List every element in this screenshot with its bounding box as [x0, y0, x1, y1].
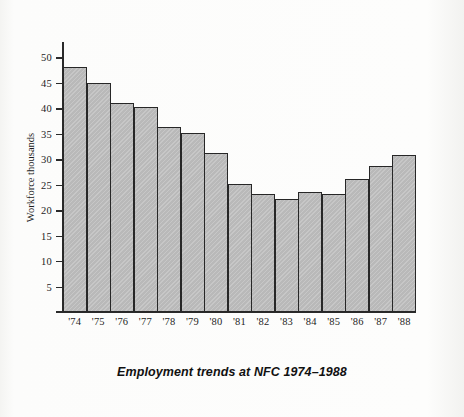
- bar: [345, 179, 369, 312]
- y-tick-label: 10: [41, 256, 52, 267]
- y-tick: 35: [56, 134, 63, 135]
- bar: [251, 194, 275, 312]
- y-tick: 5: [56, 287, 63, 288]
- bar: [181, 133, 205, 312]
- y-tick-label: 20: [41, 205, 52, 216]
- bar: [134, 107, 158, 312]
- x-tick-label: '86: [351, 316, 364, 327]
- bar: [298, 192, 322, 312]
- y-tick: 25: [56, 185, 63, 186]
- y-tick: 45: [56, 83, 63, 84]
- x-tick-label: '75: [92, 316, 105, 327]
- y-tick: 40: [56, 108, 63, 109]
- bar: [369, 166, 393, 312]
- x-tick-label: '84: [304, 316, 317, 327]
- y-tick-label: 15: [41, 230, 52, 241]
- bar: [322, 194, 346, 312]
- bar: [392, 155, 416, 312]
- bar-series: [63, 42, 416, 312]
- x-tick-label: '87: [374, 316, 387, 327]
- x-tick-label: '88: [398, 316, 411, 327]
- x-tick-label: '82: [257, 316, 270, 327]
- y-tick-label: 5: [47, 281, 52, 292]
- x-tick-label: '80: [209, 316, 222, 327]
- y-tick-label: 50: [41, 52, 52, 63]
- y-tick-label: 45: [41, 77, 52, 88]
- bar: [63, 67, 87, 312]
- x-tick-label: '81: [233, 316, 246, 327]
- bar: [87, 83, 111, 312]
- plot-area: 5101520253035404550 '74'75'76'77'78'79'8…: [63, 42, 416, 312]
- figure-page: Workforce thousands 5101520253035404550 …: [0, 0, 464, 417]
- y-tick-label: 40: [41, 103, 52, 114]
- y-tick: 10: [56, 261, 63, 262]
- chart-caption: Employment trends at NFC 1974–1988: [0, 365, 464, 379]
- y-tick: 20: [56, 210, 63, 211]
- y-axis-title-text: Workforce thousands: [26, 132, 37, 221]
- bar: [204, 153, 228, 312]
- bar: [110, 103, 134, 312]
- y-tick: 30: [56, 159, 63, 160]
- y-tick: 50: [56, 57, 63, 58]
- bar-chart-figure: Workforce thousands 5101520253035404550 …: [0, 0, 464, 417]
- bar: [157, 127, 181, 312]
- x-tick-label: '77: [139, 316, 152, 327]
- y-tick-label: 30: [41, 154, 52, 165]
- x-tick-label: '79: [186, 316, 199, 327]
- x-tick-label: '76: [115, 316, 128, 327]
- y-tick-label: 25: [41, 179, 52, 190]
- bar: [275, 199, 299, 312]
- x-tick-label: '74: [68, 316, 81, 327]
- bar: [228, 184, 252, 312]
- x-tick-label: '85: [327, 316, 340, 327]
- y-tick-label: 35: [41, 128, 52, 139]
- y-axis-title: Workforce thousands: [24, 42, 38, 312]
- y-tick: 15: [56, 236, 63, 237]
- x-tick-label: '83: [280, 316, 293, 327]
- x-tick-label: '78: [162, 316, 175, 327]
